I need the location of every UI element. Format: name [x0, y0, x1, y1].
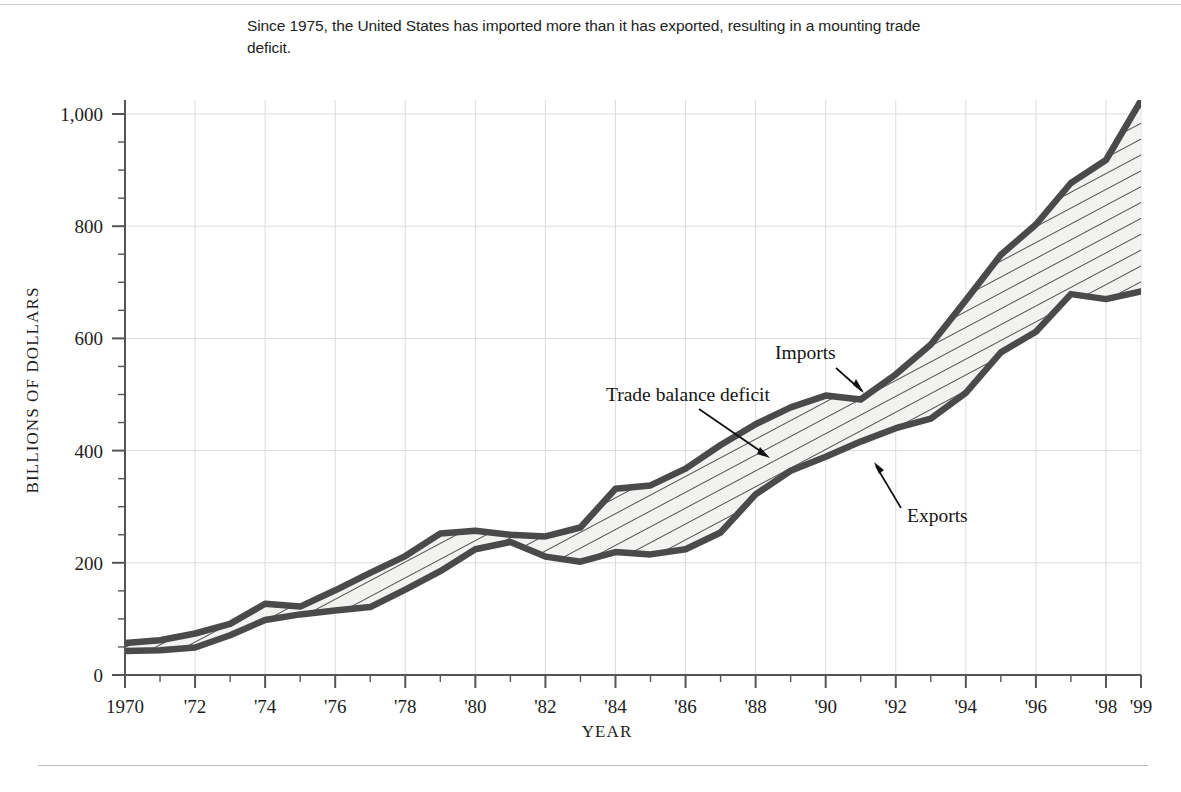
x-tick-label: '92: [885, 696, 907, 717]
deficit-annotation-label: Trade balance deficit: [606, 384, 770, 405]
imports-annotation-label: Imports: [775, 342, 836, 363]
y-axis-ticks: [112, 114, 125, 675]
exports-annotation-label: Exports: [907, 505, 968, 526]
x-tick-label: '86: [674, 696, 696, 717]
y-tick-label: 600: [75, 328, 104, 349]
y-axis-title: BILLIONS OF DOLLARS: [23, 287, 42, 494]
x-tick-label: '72: [184, 696, 206, 717]
x-tick-label: '76: [324, 696, 346, 717]
y-axis-tick-labels: 02004006008001,000: [60, 104, 103, 686]
y-tick-label: 200: [75, 553, 104, 574]
exports-arrowhead: [874, 462, 884, 474]
trade-balance-area-chart: 02004006008001,000 1970'72'74'76'78'80'8…: [0, 0, 1181, 760]
x-tick-label: '74: [254, 696, 277, 717]
y-tick-label: 800: [75, 216, 104, 237]
imports-line: [125, 101, 1141, 644]
chart-page: Since 1975, the United States has import…: [0, 0, 1181, 792]
x-tick-label: '84: [604, 696, 627, 717]
bottom-divider-rule: [38, 765, 1148, 766]
y-tick-label: 1,000: [60, 104, 103, 125]
x-tick-label: '94: [955, 696, 978, 717]
x-tick-label: '82: [534, 696, 556, 717]
x-tick-label: '98: [1095, 696, 1117, 717]
annotation-exports: Exports: [874, 462, 968, 526]
x-axis-title: YEAR: [582, 722, 633, 741]
x-tick-label: '90: [814, 696, 836, 717]
x-axis-ticks: [125, 675, 1141, 688]
x-axis-tick-labels: 1970'72'74'76'78'80'82'84'86'88'90'92'94…: [106, 696, 1152, 717]
y-tick-label: 400: [75, 441, 104, 462]
annotation-imports: Imports: [775, 342, 864, 393]
x-tick-label: '88: [744, 696, 766, 717]
x-tick-label: '96: [1025, 696, 1047, 717]
data-area-group: [125, 101, 1141, 651]
y-tick-label: 0: [94, 665, 104, 686]
x-tick-label: '80: [464, 696, 486, 717]
x-tick-label: '99: [1130, 696, 1152, 717]
x-tick-label: '78: [394, 696, 416, 717]
x-tick-label: 1970: [106, 696, 144, 717]
trade-deficit-band: [125, 101, 1141, 651]
imports-arrowhead: [853, 379, 864, 393]
